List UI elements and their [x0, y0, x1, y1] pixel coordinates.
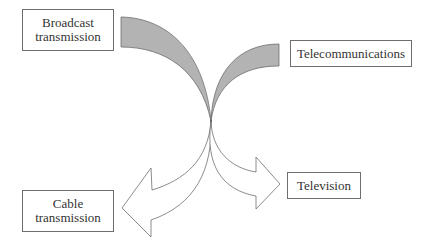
television-box: Television — [287, 172, 361, 199]
broadcast-label-line1: Broadcast — [35, 16, 101, 30]
telecommunications-box: Telecommunications — [290, 40, 412, 67]
convergence-point — [210, 120, 212, 122]
cable-label-line2: transmission — [35, 211, 101, 225]
broadcast-flow-band — [121, 17, 211, 121]
cable-label-line1: Cable — [35, 197, 101, 211]
broadcast-transmission-box: Broadcast transmission — [22, 9, 114, 51]
cable-flow-arrow — [122, 121, 211, 237]
cable-transmission-box: Cable transmission — [22, 190, 114, 232]
telecom-flow-band — [211, 44, 279, 121]
telecom-label: Telecommunications — [297, 47, 405, 61]
broadcast-label-line2: transmission — [35, 30, 101, 44]
tv-flow-arrow — [210, 121, 280, 209]
television-label: Television — [297, 179, 351, 193]
